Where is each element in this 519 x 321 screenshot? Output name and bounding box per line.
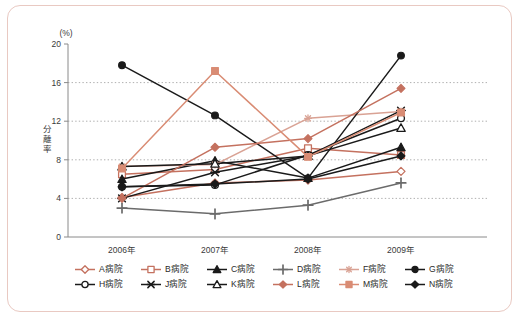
data-point-marker [398, 52, 405, 59]
legend-item-J病院[interactable]: J病院 [140, 279, 206, 290]
data-point-marker [397, 84, 405, 92]
x-tick-label: 2006年 [108, 245, 136, 255]
legend-label: D病院 [297, 264, 321, 275]
legend-item-H病院[interactable]: H病院 [74, 279, 140, 290]
data-point-marker [212, 68, 219, 75]
legend-swatch-K病院 [206, 279, 228, 290]
legend-row: H病院J病院K病院L病院M病院N病院 [74, 277, 474, 292]
series-M病院 [119, 68, 405, 172]
marker-circle-filled-icon [398, 52, 405, 59]
marker-square-filled-icon [119, 165, 126, 172]
legend-item-B病院[interactable]: B病院 [140, 264, 206, 275]
y-tick-label: 8 [56, 155, 61, 165]
marker-square-filled-icon [346, 281, 352, 287]
marker-diamond-open-icon [81, 266, 88, 273]
marker-square-open-icon [305, 145, 312, 152]
marker-diamond-filled-icon [411, 281, 418, 288]
data-point-marker [210, 209, 220, 219]
x-tick-label: 2008年 [294, 245, 322, 255]
marker-square-filled-icon [212, 68, 219, 75]
legend-label: M病院 [363, 279, 388, 290]
data-point-marker [411, 281, 418, 288]
legend-label: A病院 [99, 264, 123, 275]
legend-swatch-B病院 [140, 264, 162, 275]
series-layer [117, 52, 406, 218]
data-point-marker [303, 200, 313, 210]
legend-item-A病院[interactable]: A病院 [74, 264, 140, 275]
legend-swatch-G病院 [404, 264, 426, 275]
marker-diamond-filled-icon [211, 143, 219, 151]
marker-circle-filled-icon [212, 112, 219, 119]
data-point-marker [279, 281, 286, 288]
series-L病院 [118, 84, 405, 202]
legend-label: G病院 [429, 264, 454, 275]
y-tick-label: 20 [52, 39, 62, 49]
data-point-marker [119, 165, 126, 172]
legend-swatch-L病院 [272, 279, 294, 290]
legend-swatch-A病院 [74, 264, 96, 275]
data-point-marker [81, 266, 88, 273]
data-point-marker [212, 112, 219, 119]
data-point-marker [346, 266, 352, 272]
legend-item-N病院[interactable]: N病院 [404, 279, 470, 290]
legend-row: A病院B病院C病院D病院F病院G病院 [74, 262, 474, 277]
legend-item-F病院[interactable]: F病院 [338, 264, 404, 275]
data-point-marker [346, 281, 352, 287]
marker-triangle-open-icon [397, 124, 405, 132]
legend-item-K病院[interactable]: K病院 [206, 279, 272, 290]
legend-item-M病院[interactable]: M病院 [338, 279, 404, 290]
series-line [122, 71, 401, 169]
marker-diamond-filled-icon [304, 135, 312, 143]
data-point-marker [305, 145, 312, 152]
y-tick-label: 16 [52, 78, 62, 88]
y-tick-label: 4 [56, 193, 61, 203]
data-point-marker [397, 124, 405, 132]
legend-swatch-D病院 [272, 264, 294, 275]
legend-item-G病院[interactable]: G病院 [404, 264, 470, 275]
legend-item-C病院[interactable]: C病院 [206, 264, 272, 275]
legend-swatch-C病院 [206, 264, 228, 275]
legend-label: C病院 [231, 264, 255, 275]
chart-page: 048121620(%)分離率2006年2007年2008年2009年 A病院B… [0, 0, 519, 321]
marker-circle-open-icon [82, 281, 88, 287]
x-tick-label: 2009年 [387, 245, 415, 255]
legend-label: N病院 [429, 279, 453, 290]
legend-swatch-N病院 [404, 279, 426, 290]
data-point-marker [148, 266, 154, 272]
data-point-marker [279, 265, 288, 274]
data-point-marker [119, 62, 126, 69]
legend-label: F病院 [363, 264, 386, 275]
series-D病院 [117, 178, 406, 218]
y-tick-label: 12 [52, 116, 62, 126]
y-axis-title: 分離率 [41, 125, 51, 155]
legend-swatch-J病院 [140, 279, 162, 290]
legend-item-L病院[interactable]: L病院 [272, 279, 338, 290]
marker-diamond-open-icon [397, 167, 405, 175]
data-point-marker [396, 178, 406, 188]
data-point-marker [147, 281, 155, 287]
data-point-marker [82, 281, 88, 287]
series-J病院 [118, 107, 405, 202]
legend-label: H病院 [99, 279, 123, 290]
marker-triangle-filled-icon [397, 143, 405, 151]
legend-label: B病院 [165, 264, 189, 275]
marker-circle-filled-icon [119, 62, 126, 69]
legend-label: K病院 [231, 279, 255, 290]
legend-label: L病院 [297, 279, 320, 290]
legend-item-D病院[interactable]: D病院 [272, 264, 338, 275]
marker-square-filled-icon [305, 154, 312, 161]
chart-legend: A病院B病院C病院D病院F病院G病院H病院J病院K病院L病院M病院N病院 [74, 262, 474, 292]
legend-swatch-F病院 [338, 264, 360, 275]
series-G病院 [119, 52, 405, 181]
data-point-marker [397, 167, 405, 175]
data-point-marker [305, 115, 312, 122]
legend-label: J病院 [165, 279, 187, 290]
data-point-marker [412, 266, 418, 272]
y-tick-label: 0 [56, 232, 61, 242]
data-point-marker [305, 154, 312, 161]
legend-swatch-H病院 [74, 279, 96, 290]
series-B病院 [119, 145, 405, 178]
marker-diamond-filled-icon [279, 281, 286, 288]
data-point-marker [304, 135, 312, 143]
marker-square-filled-icon [398, 109, 405, 116]
